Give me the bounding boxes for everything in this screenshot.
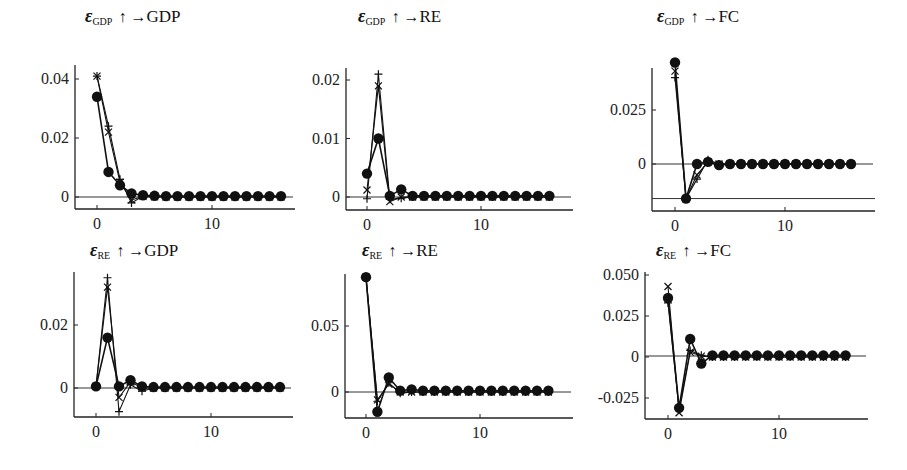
y-tick-label: 0.02 bbox=[41, 129, 69, 146]
dot-marker bbox=[670, 57, 680, 67]
irf-panel-3: 00.025010 bbox=[610, 57, 875, 234]
series-line-dots bbox=[367, 139, 549, 196]
irf-panel-6: -0.02500.0250.050010 bbox=[598, 266, 868, 442]
plus-marker bbox=[104, 274, 112, 282]
dot-marker bbox=[362, 168, 372, 178]
x-tick-label: 10 bbox=[771, 425, 787, 442]
y-tick-label: 0 bbox=[331, 383, 339, 400]
irf-panel-2: 00.010.02010 bbox=[312, 68, 573, 233]
irf-panel-4: 00.02010 bbox=[40, 272, 293, 440]
x-tick-label: 10 bbox=[204, 215, 220, 232]
y-tick-label: 0.02 bbox=[312, 71, 340, 88]
series-line-plus bbox=[675, 78, 851, 199]
dot-marker bbox=[102, 332, 112, 342]
plus-marker bbox=[115, 408, 123, 416]
series-line-cross bbox=[675, 71, 851, 198]
dot-marker bbox=[692, 159, 702, 169]
series-line-dots bbox=[675, 62, 851, 198]
dot-marker bbox=[372, 407, 382, 417]
y-tick-label: 0 bbox=[332, 188, 340, 205]
x-tick-label: 0 bbox=[92, 423, 100, 440]
dot-marker bbox=[114, 381, 124, 391]
series-line-dots bbox=[96, 338, 280, 387]
irf-panel-5: 00.05010 bbox=[311, 272, 573, 441]
x-tick-label: 0 bbox=[671, 217, 679, 234]
y-tick-label: 0.04 bbox=[41, 70, 69, 87]
plus-marker bbox=[363, 195, 371, 203]
series-line-plus bbox=[367, 74, 549, 199]
series-line-cross bbox=[96, 287, 280, 397]
y-tick-label: 0.01 bbox=[312, 130, 340, 147]
dot-marker bbox=[103, 167, 113, 177]
y-tick-label: 0 bbox=[638, 155, 646, 172]
x-tick-label: 0 bbox=[362, 424, 370, 441]
plus-marker bbox=[374, 70, 382, 78]
x-tick-label: 10 bbox=[777, 217, 793, 234]
y-tick-label: 0 bbox=[61, 188, 69, 205]
dot-marker bbox=[373, 133, 383, 143]
x-tick-label: 0 bbox=[363, 216, 371, 233]
y-tick-label: 0 bbox=[631, 348, 639, 365]
dot-marker bbox=[696, 358, 706, 368]
y-tick-label: 0 bbox=[60, 379, 68, 396]
x-tick-label: 0 bbox=[93, 215, 101, 232]
series-line-cross bbox=[367, 86, 549, 202]
y-tick-label: 0.02 bbox=[40, 316, 68, 333]
x-tick-label: 10 bbox=[473, 216, 489, 233]
series-line-cross bbox=[366, 277, 548, 400]
x-tick-label: 0 bbox=[664, 425, 672, 442]
chart-canvas: 00.020.0401000.010.0201000.02501000.0201… bbox=[0, 0, 907, 470]
dot-marker bbox=[685, 334, 695, 344]
y-tick-label: -0.025 bbox=[598, 389, 639, 406]
dot-marker bbox=[396, 184, 406, 194]
series-line-cross bbox=[97, 76, 281, 200]
series-line-dots bbox=[97, 97, 281, 196]
y-tick-label: 0.05 bbox=[311, 317, 339, 334]
y-tick-label: 0.050 bbox=[603, 266, 639, 283]
y-tick-label: 0.025 bbox=[610, 101, 646, 118]
x-tick-label: 10 bbox=[472, 424, 488, 441]
y-tick-label: 0.025 bbox=[603, 307, 639, 324]
irf-panel-1: 00.020.04010 bbox=[41, 65, 295, 232]
x-tick-label: 10 bbox=[203, 423, 219, 440]
